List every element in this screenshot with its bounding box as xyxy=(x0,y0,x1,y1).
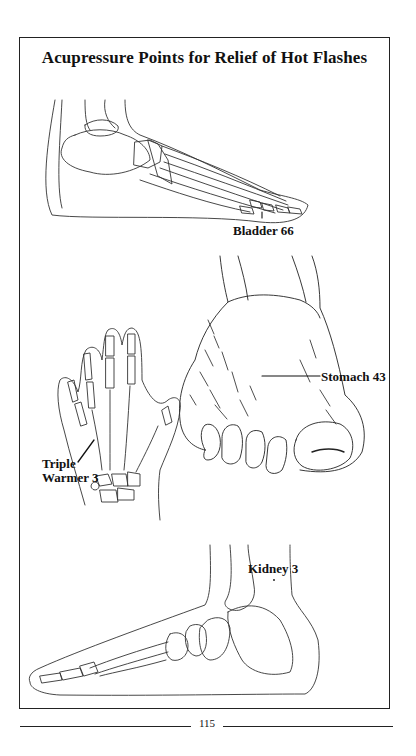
stomach-43-label: Stomach 43 xyxy=(321,369,386,384)
foot-skeleton-lateral-drawing xyxy=(46,100,308,223)
footer-rule-right xyxy=(223,726,393,727)
foot-top-view-drawing xyxy=(180,256,365,473)
kidney-3-label: Kidney 3 xyxy=(248,561,298,576)
bladder-66-label: Bladder 66 xyxy=(233,223,294,238)
footer-rule-left xyxy=(20,726,191,727)
triple-warmer-3-label-line1: Triple xyxy=(42,456,76,471)
hand-skeleton-drawing xyxy=(58,328,180,520)
page-number: 115 xyxy=(191,717,223,729)
triple-warmer-3-label-line2: Warmer 3 xyxy=(42,470,98,485)
page-footer: 115 xyxy=(20,717,393,733)
